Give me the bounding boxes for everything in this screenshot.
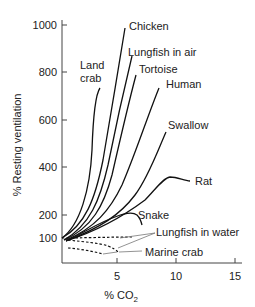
label-marine-crab: Marine crab xyxy=(145,246,203,258)
x-tick-10: 10 xyxy=(170,270,182,282)
y-tick-200: 200 xyxy=(39,209,57,221)
label-crab: crab xyxy=(80,72,101,84)
y-axis-title: % Resting ventilation xyxy=(11,94,23,197)
y-tick-600: 600 xyxy=(39,114,57,126)
curve-swallow xyxy=(66,132,166,241)
y-tick-400: 400 xyxy=(39,161,57,173)
x-tick-15: 15 xyxy=(229,270,241,282)
y-tick-100: 100 xyxy=(39,232,57,244)
curve-marine-crab xyxy=(68,248,103,254)
label-lungfish-water: Lungfish in water xyxy=(156,226,239,238)
label-rat: Rat xyxy=(195,175,212,187)
x-axis-title: % CO2 xyxy=(104,289,138,304)
label-tortoise: Tortoise xyxy=(139,63,178,75)
curve-lungfish-water-2 xyxy=(68,240,118,252)
label-lungfish-air: Lungfish in air xyxy=(128,46,197,58)
label-chicken: Chicken xyxy=(129,20,169,32)
label-snake: Snake xyxy=(138,209,169,221)
ventilation-chart: 1000 800 600 400 200 100 5 10 15 % Resti… xyxy=(0,0,255,307)
leader-marine-crab xyxy=(119,251,142,252)
curve-tortoise xyxy=(64,75,136,240)
y-tick-800: 800 xyxy=(39,66,57,78)
y-tick-1000: 1000 xyxy=(33,19,57,31)
leader-marine-crab-2 xyxy=(103,252,117,254)
x-tick-5: 5 xyxy=(114,270,120,282)
label-human: Human xyxy=(166,78,201,90)
label-swallow: Swallow xyxy=(168,119,208,131)
label-land: Land xyxy=(80,59,104,71)
